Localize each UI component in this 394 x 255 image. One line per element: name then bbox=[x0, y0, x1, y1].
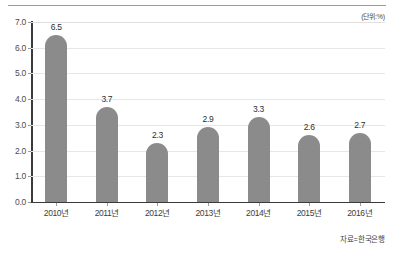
bar-value-label: 2.7 bbox=[354, 120, 365, 130]
bar-value-label: 3.3 bbox=[253, 104, 264, 114]
x-tick-label: 2015년 bbox=[297, 206, 322, 218]
bar-slot: 6.5 bbox=[31, 22, 82, 202]
bar[interactable] bbox=[96, 107, 118, 202]
bar-value-label: 2.6 bbox=[304, 122, 315, 132]
bar-slot: 3.3 bbox=[233, 22, 284, 202]
bar-slot: 2.7 bbox=[334, 22, 385, 202]
y-tick-label: 4.0 bbox=[15, 94, 26, 104]
source-caption: 자료=한국은행 bbox=[340, 233, 385, 244]
x-tick-label: 2014년 bbox=[246, 206, 271, 218]
x-tick-label: 2011년 bbox=[95, 206, 119, 218]
y-tick-label: 0.0 bbox=[15, 197, 26, 207]
bar[interactable] bbox=[45, 35, 67, 202]
y-tick-label: 5.0 bbox=[15, 68, 26, 78]
bar[interactable] bbox=[298, 135, 320, 202]
y-tick-label: 3.0 bbox=[15, 120, 26, 130]
y-tick-mark bbox=[28, 202, 31, 203]
bar-value-label: 2.9 bbox=[203, 114, 214, 124]
bar-slot: 2.9 bbox=[183, 22, 234, 202]
x-tick-label: 2013년 bbox=[196, 206, 221, 218]
x-tick-mark bbox=[157, 203, 158, 206]
bar-value-label: 2.3 bbox=[152, 130, 163, 140]
x-tick-mark bbox=[259, 203, 260, 206]
plot-area: 0.01.02.03.04.05.06.07.0 6.53.72.32.93.3… bbox=[31, 22, 385, 202]
top-divider bbox=[8, 5, 386, 6]
bar[interactable] bbox=[349, 133, 371, 202]
bar[interactable] bbox=[197, 127, 219, 202]
x-tick-mark bbox=[107, 203, 108, 206]
x-tick-mark bbox=[360, 203, 361, 206]
bar-slot: 2.6 bbox=[284, 22, 335, 202]
bar-value-label: 3.7 bbox=[101, 94, 112, 104]
x-tick-mark bbox=[56, 203, 57, 206]
x-tick-label: 2012년 bbox=[145, 206, 170, 218]
chart-page: (단위:%) 0.01.02.03.04.05.06.07.0 6.53.72.… bbox=[0, 0, 394, 255]
x-tick-mark bbox=[208, 203, 209, 206]
bar[interactable] bbox=[248, 117, 270, 202]
y-tick-label: 7.0 bbox=[15, 17, 26, 27]
y-tick-label: 2.0 bbox=[15, 146, 26, 156]
y-tick-label: 6.0 bbox=[15, 43, 26, 53]
bar-slot: 3.7 bbox=[82, 22, 133, 202]
unit-caption: (단위:%) bbox=[361, 11, 385, 21]
x-tick-label: 2016년 bbox=[347, 206, 372, 218]
y-tick-label: 1.0 bbox=[15, 171, 26, 181]
bar[interactable] bbox=[146, 143, 168, 202]
x-tick-label: 2010년 bbox=[44, 206, 69, 218]
x-tick-mark bbox=[309, 203, 310, 206]
bar-value-label: 6.5 bbox=[51, 22, 62, 32]
bar-slot: 2.3 bbox=[132, 22, 183, 202]
